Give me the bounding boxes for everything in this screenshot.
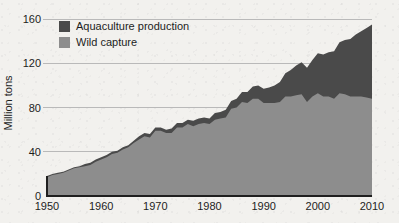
y-tick-label: 80 — [29, 102, 41, 114]
x-tick-labels-group: 1950196019701980199020002010 — [35, 200, 384, 212]
chart-legend: Aquaculture production Wild capture — [59, 20, 189, 48]
area-wild-capture — [47, 93, 372, 196]
x-tick-label: 1960 — [89, 200, 113, 212]
x-tick-label: 1950 — [35, 200, 59, 212]
legend-swatch-aquaculture — [59, 21, 70, 32]
x-tick-label: 1990 — [251, 200, 275, 212]
x-tick-label: 2010 — [360, 200, 384, 212]
x-tick-label: 1980 — [197, 200, 221, 212]
y-axis-title: Million tons — [2, 75, 14, 131]
y-tick-label: 40 — [29, 146, 41, 158]
stacked-areas-group — [47, 25, 372, 196]
fisheries-production-area-chart: 04080120160 1950196019701980199020002010… — [0, 0, 399, 223]
x-tick-label: 1970 — [143, 200, 167, 212]
y-tick-label: 120 — [23, 57, 41, 69]
y-tick-label: 160 — [23, 13, 41, 25]
y-tick-labels-group: 04080120160 — [23, 13, 47, 202]
chart-canvas: 04080120160 1950196019701980199020002010… — [0, 0, 399, 223]
legend-label-wild-capture: Wild capture — [76, 36, 137, 48]
x-tick-label: 2000 — [306, 200, 330, 212]
legend-label-aquaculture: Aquaculture production — [76, 20, 189, 32]
legend-swatch-wild-capture — [59, 37, 70, 48]
